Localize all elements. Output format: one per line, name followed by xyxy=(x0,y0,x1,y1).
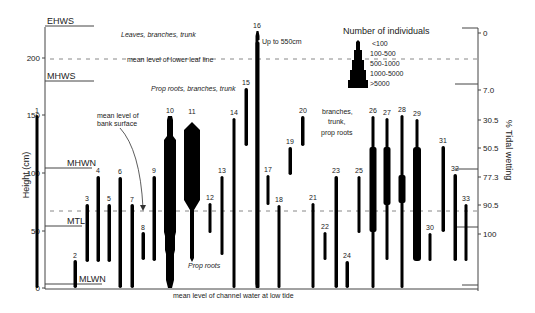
species-label: 30 xyxy=(426,224,434,231)
legend-width-scale-icon xyxy=(348,40,368,88)
species-bar-16-trunk xyxy=(256,42,260,288)
species-label: 12 xyxy=(206,194,214,201)
species-bar-30 xyxy=(429,233,432,261)
species-bar-15 xyxy=(245,88,249,146)
species-label: 8 xyxy=(141,224,145,231)
prop-roots-annotation: Prop roots xyxy=(188,262,221,270)
right-tick-labels: 0 7.0 30.5 50.5 77.3 90.5 100 xyxy=(483,29,499,239)
mlwn-label: MLWN xyxy=(79,274,106,284)
branches-annotation: trunk, xyxy=(328,118,346,125)
legend: Number of individuals <100 100-500 500-1… xyxy=(343,26,430,88)
species-bar-24 xyxy=(346,261,350,288)
species-label: 19 xyxy=(286,138,294,145)
species-label: 9 xyxy=(152,167,156,174)
branches-annotation: branches, xyxy=(322,108,353,115)
species-bar-17 xyxy=(267,175,270,205)
species-bar-32 xyxy=(454,174,458,261)
species-bar-12 xyxy=(209,203,212,233)
species-bar-33 xyxy=(465,204,468,261)
species-bar-21 xyxy=(312,203,315,288)
species-label: 6 xyxy=(118,168,122,175)
species-bar-27-thick xyxy=(384,147,391,205)
species-label: 28 xyxy=(398,106,406,113)
up-to-550-annotation: Up to 550cm xyxy=(262,38,302,46)
species-bar-7 xyxy=(131,204,135,288)
species-label: 13 xyxy=(218,167,226,174)
species-bar-8 xyxy=(142,232,146,260)
legend-title: Number of individuals xyxy=(343,26,430,36)
species-bar-10 xyxy=(164,116,176,288)
species-label: 25 xyxy=(355,167,363,174)
species-label: 2 xyxy=(73,252,77,259)
species-bar-6 xyxy=(119,177,123,288)
annotations: mean level of lower leaf line Leaves, br… xyxy=(97,31,353,299)
species-label: 16 xyxy=(253,22,261,29)
tide-level-lines xyxy=(45,26,102,284)
species-bar-1 xyxy=(36,115,39,288)
species-bar-11 xyxy=(184,122,200,262)
species-label: 21 xyxy=(309,194,317,201)
species-bar-14 xyxy=(233,118,236,288)
tick-label: 77.3 xyxy=(483,173,499,182)
species-height-chart: 0 50 100 150 200 0 7.0 30.5 50.5 77.3 90… xyxy=(0,0,535,313)
tick-label: 0 xyxy=(483,29,488,38)
species-bar-26-thick xyxy=(370,147,377,232)
species-bar-2 xyxy=(74,260,78,288)
tick-label: 50.5 xyxy=(483,144,499,153)
species-bar-25 xyxy=(358,176,361,233)
tick-label: 30.5 xyxy=(483,116,499,125)
y-axis-label: Height (cm) xyxy=(21,152,31,199)
species-bar-5 xyxy=(108,204,112,262)
species-label: 4 xyxy=(96,167,100,174)
tick-label: 100 xyxy=(483,230,497,239)
species-bar-18 xyxy=(278,205,281,288)
ehws-label: EHWS xyxy=(47,16,74,26)
species-bar-4 xyxy=(97,176,101,262)
channel-water-label: mean level of channel water at low tide xyxy=(173,292,294,299)
species-label: 32 xyxy=(451,165,459,172)
bank-surface-label: bank surface xyxy=(97,120,137,127)
species-label: 27 xyxy=(383,109,391,116)
lower-leaf-line-label: mean level of lower leaf line xyxy=(127,56,213,63)
species-label: 18 xyxy=(275,196,283,203)
tick-label: 200 xyxy=(27,54,41,63)
legend-entry: 500-1000 xyxy=(370,60,400,67)
bank-surface-label: mean level of xyxy=(97,112,139,119)
species-bar-13 xyxy=(221,176,224,255)
species-bar-9 xyxy=(153,176,157,261)
species-label: 11 xyxy=(188,108,195,115)
species-bar-23 xyxy=(335,176,339,288)
species-bar-3 xyxy=(86,204,90,262)
leaves-annotation: Leaves, branches, trunk xyxy=(121,31,196,38)
tick-label: 90.5 xyxy=(483,201,499,210)
species-label: 26 xyxy=(369,107,377,114)
tick-label: 7.0 xyxy=(483,86,495,95)
species-bar-20 xyxy=(301,116,305,146)
species-label: 33 xyxy=(462,195,470,202)
species-label: 29 xyxy=(413,110,421,117)
mhwn-label: MHWN xyxy=(67,158,96,168)
species-label: 24 xyxy=(343,252,351,259)
prop-roots-branches-annotation: Prop roots, branches, trunk xyxy=(151,85,236,93)
species-bar-22 xyxy=(324,232,327,260)
species-label: 31 xyxy=(439,137,447,144)
mhws-label: MHWS xyxy=(47,71,76,81)
arrowhead-icon xyxy=(140,205,146,211)
species-label: 14 xyxy=(230,109,238,116)
species-label: 22 xyxy=(321,223,329,230)
species-label: 23 xyxy=(332,167,340,174)
legend-entry: 100-500 xyxy=(370,50,396,57)
species-label: 17 xyxy=(264,166,272,173)
species-number-labels: 1 2 3 4 5 6 7 8 9 10 11 12 13 14 15 16 1… xyxy=(35,22,470,259)
species-bar-29-thick xyxy=(413,147,421,261)
species-label: 3 xyxy=(85,195,89,202)
species-label: 20 xyxy=(299,107,307,114)
species-label: 1 xyxy=(35,107,39,114)
y2-axis-label: % Tidal wetting xyxy=(504,120,514,181)
branches-annotation: prop roots xyxy=(321,129,353,137)
species-label: 7 xyxy=(130,196,134,203)
mtl-label: MTL xyxy=(67,216,85,226)
species-bar-28-thick xyxy=(399,175,406,203)
legend-entry: 1000-5000 xyxy=(370,70,404,77)
species-label: 5 xyxy=(107,195,111,202)
